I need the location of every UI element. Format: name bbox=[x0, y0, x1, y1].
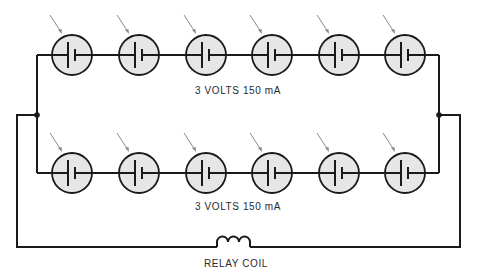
solar-cell-icon bbox=[50, 15, 92, 75]
solar-cell-icon bbox=[250, 15, 292, 75]
solar-cell-icon bbox=[317, 15, 359, 75]
light-arrow-icon bbox=[317, 15, 329, 34]
relay-coil-icon bbox=[217, 237, 250, 248]
solar-cell-icon bbox=[383, 15, 425, 75]
solar-cell-icon bbox=[50, 133, 92, 193]
light-arrow-icon bbox=[50, 15, 62, 34]
solar-cell-icon bbox=[317, 133, 359, 193]
relay-coil-label: RELAY COIL bbox=[204, 258, 268, 269]
junction-dot-right bbox=[436, 112, 442, 118]
light-arrow-icon bbox=[383, 15, 395, 34]
solar-cell-icon bbox=[383, 133, 425, 193]
solar-cell-icon bbox=[184, 15, 226, 75]
light-arrow-icon bbox=[184, 133, 196, 152]
light-arrow-icon bbox=[383, 133, 395, 152]
wiring bbox=[17, 55, 460, 247]
solar-cell-icon bbox=[117, 133, 159, 193]
circuit-schematic bbox=[0, 0, 477, 274]
light-arrow-icon bbox=[250, 15, 262, 34]
bottom-string-label: 3 VOLTS 150 mA bbox=[195, 201, 281, 212]
top-string-label: 3 VOLTS 150 mA bbox=[195, 85, 281, 96]
solar-cell-icon bbox=[117, 15, 159, 75]
light-arrow-icon bbox=[117, 133, 129, 152]
solar-relay-circuit-diagram: 3 VOLTS 150 mA 3 VOLTS 150 mA RELAY COIL bbox=[0, 0, 477, 274]
solar-cell-icon bbox=[184, 133, 226, 193]
solar-cell-icon bbox=[250, 133, 292, 193]
light-arrow-icon bbox=[184, 15, 196, 34]
light-arrow-icon bbox=[50, 133, 62, 152]
light-arrow-icon bbox=[317, 133, 329, 152]
top-cell-string bbox=[50, 15, 425, 75]
light-arrow-icon bbox=[117, 15, 129, 34]
bottom-cell-string bbox=[50, 133, 425, 193]
light-arrow-icon bbox=[250, 133, 262, 152]
junction-dot-left bbox=[34, 112, 40, 118]
